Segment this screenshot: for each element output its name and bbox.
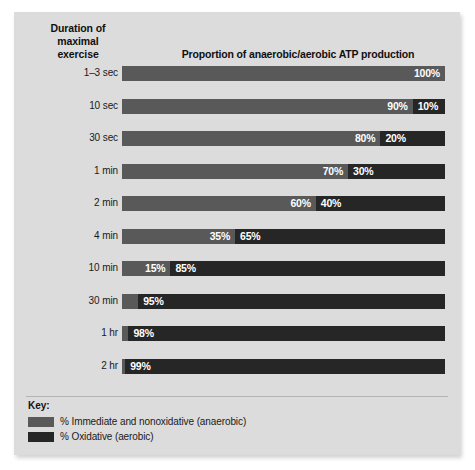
row-label: 1–3 sec bbox=[14, 67, 118, 78]
bar-segment-aerobic bbox=[138, 294, 445, 309]
bar-value-aerobic: 20% bbox=[385, 132, 405, 144]
chart-row: 1–3 sec100% bbox=[14, 66, 460, 81]
row-label: 1 min bbox=[14, 165, 118, 176]
bar-value-aerobic: 10% bbox=[418, 100, 438, 112]
chart-row: 2 min60%40% bbox=[14, 196, 460, 211]
stacked-bar: 95% bbox=[122, 294, 445, 309]
bar-segment-aerobic bbox=[125, 359, 445, 374]
chart-row: 10 min15%85% bbox=[14, 261, 460, 276]
legend-label: % Oxidative (aerobic) bbox=[60, 431, 154, 442]
stacked-bar: 100% bbox=[122, 66, 445, 81]
bar-value-aerobic: 40% bbox=[321, 197, 341, 209]
row-label: 30 min bbox=[14, 295, 118, 306]
chart-row: 1 hr98%2% bbox=[14, 326, 460, 341]
row-axis-title-line1: Duration of bbox=[26, 22, 130, 35]
legend-swatch bbox=[28, 432, 54, 442]
bar-value-aerobic: 95% bbox=[143, 295, 163, 307]
stacked-bar: 35%65% bbox=[122, 229, 445, 244]
row-label: 10 sec bbox=[14, 100, 118, 111]
chart-row: 1 min70%30% bbox=[14, 164, 460, 179]
row-axis-title-line3: exercise bbox=[26, 48, 130, 61]
bar-segment-aerobic bbox=[128, 326, 445, 341]
bar-value-anaerobic: 90% bbox=[122, 100, 408, 112]
bar-value-anaerobic: 35% bbox=[122, 230, 230, 242]
chart-row: 2 hr99%1% bbox=[14, 359, 460, 374]
row-label: 4 min bbox=[14, 230, 118, 241]
stacked-bar-chart: 1–3 sec100%10 sec90%10%30 sec80%20%1 min… bbox=[14, 64, 460, 394]
stacked-bar: 99% bbox=[122, 359, 445, 374]
bar-value-aerobic: 99% bbox=[130, 360, 150, 372]
chart-row: 30 sec80%20% bbox=[14, 131, 460, 146]
legend-title: Key: bbox=[28, 400, 50, 411]
chart-title: Proportion of anaerobic/aerobic ATP prod… bbox=[136, 48, 460, 60]
chart-row: 30 min95%5% bbox=[14, 294, 460, 309]
bar-value-aerobic: 98% bbox=[133, 327, 153, 339]
bar-value-anaerobic: 80% bbox=[122, 132, 375, 144]
bar-segment-aerobic bbox=[235, 229, 445, 244]
legend-swatch bbox=[28, 417, 54, 427]
chart-row: 10 sec90%10% bbox=[14, 99, 460, 114]
chart-row: 4 min35%65% bbox=[14, 229, 460, 244]
stacked-bar: 80%20% bbox=[122, 131, 445, 146]
bar-segment-anaerobic bbox=[122, 294, 138, 309]
bar-value-aerobic: 30% bbox=[353, 165, 373, 177]
row-label: 10 min bbox=[14, 262, 118, 273]
row-axis-title: Duration of maximal exercise bbox=[26, 22, 130, 61]
stacked-bar: 15%85% bbox=[122, 261, 445, 276]
legend-label: % Immediate and nonoxidative (anaerobic) bbox=[60, 416, 246, 427]
bar-value-anaerobic: 60% bbox=[122, 197, 311, 209]
bar-segment-aerobic bbox=[170, 261, 445, 276]
legend-divider bbox=[26, 396, 448, 397]
bar-value-aerobic: 65% bbox=[240, 230, 260, 242]
row-axis-title-line2: maximal bbox=[26, 35, 130, 48]
row-label: 30 sec bbox=[14, 132, 118, 143]
stacked-bar: 70%30% bbox=[122, 164, 445, 179]
stacked-bar: 60%40% bbox=[122, 196, 445, 211]
bar-value-anaerobic: 15% bbox=[122, 262, 165, 274]
bar-value-anaerobic: 70% bbox=[122, 165, 343, 177]
bar-value-anaerobic: 100% bbox=[122, 67, 440, 79]
row-label: 1 hr bbox=[14, 327, 118, 338]
row-label: 2 min bbox=[14, 197, 118, 208]
figure-panel: Duration of maximal exercise Proportion … bbox=[14, 12, 460, 455]
row-label: 2 hr bbox=[14, 360, 118, 371]
stacked-bar: 98% bbox=[122, 326, 445, 341]
bar-value-aerobic: 85% bbox=[175, 262, 195, 274]
stacked-bar: 90%10% bbox=[122, 99, 445, 114]
